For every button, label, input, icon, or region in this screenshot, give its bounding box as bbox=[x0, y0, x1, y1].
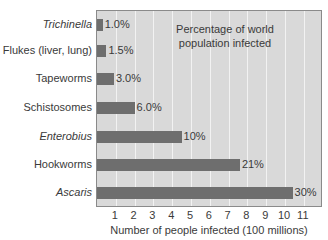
x-tick-label: 5 bbox=[180, 209, 200, 221]
x-tick-label: 7 bbox=[218, 209, 238, 221]
gridline bbox=[285, 11, 286, 206]
x-tick-label: 8 bbox=[236, 209, 256, 221]
percent-label: 3.0% bbox=[116, 72, 141, 84]
bar bbox=[97, 73, 114, 85]
category-label: Ascaris bbox=[56, 186, 92, 198]
gridline bbox=[135, 11, 136, 206]
gridline bbox=[304, 11, 305, 206]
category-label: Trichinella bbox=[43, 18, 92, 30]
percent-label: 1.0% bbox=[105, 18, 130, 30]
percent-label: 6.0% bbox=[137, 101, 162, 113]
category-label: Enterobius bbox=[39, 130, 92, 142]
x-tick-label: 2 bbox=[124, 209, 144, 221]
category-label: Schistosomes bbox=[24, 101, 92, 113]
bar bbox=[97, 159, 240, 171]
x-tick-label: 10 bbox=[274, 209, 294, 221]
x-tick-label: 1 bbox=[105, 209, 125, 221]
x-tick-label: 3 bbox=[142, 209, 162, 221]
category-label: Flukes (liver, lung) bbox=[3, 44, 92, 56]
x-axis-label: Number of people infected (100 millions) bbox=[96, 224, 322, 236]
bar bbox=[97, 45, 106, 57]
annotation-label: Percentage of world population infected bbox=[165, 22, 285, 50]
x-tick-label: 11 bbox=[293, 209, 313, 221]
category-label: Hookworms bbox=[34, 158, 92, 170]
x-tick-label: 6 bbox=[199, 209, 219, 221]
percent-label: 21% bbox=[242, 158, 264, 170]
bar bbox=[97, 187, 293, 199]
x-tick-label: 9 bbox=[255, 209, 275, 221]
percent-label: 1.5% bbox=[108, 44, 133, 56]
category-label: Tapeworms bbox=[36, 72, 92, 84]
percent-label: 10% bbox=[184, 130, 206, 142]
x-tick-label: 4 bbox=[161, 209, 181, 221]
bar bbox=[97, 131, 182, 143]
bar bbox=[97, 102, 135, 114]
percent-label: 30% bbox=[295, 186, 317, 198]
bar bbox=[97, 19, 103, 31]
